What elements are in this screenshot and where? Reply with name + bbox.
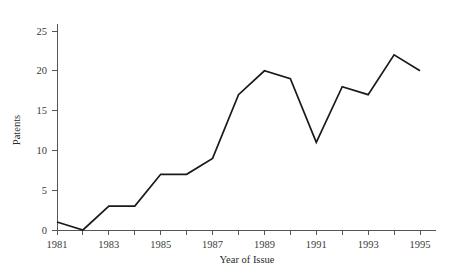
- x-tick-label: 1995: [410, 239, 431, 250]
- x-tick-label: 1981: [47, 239, 68, 250]
- x-tick-label: 1993: [358, 239, 379, 250]
- x-tick-labels: 19811983198519871989199119931995: [47, 239, 431, 250]
- y-tick-labels: 0510152025: [37, 26, 48, 236]
- data-series-group: [57, 55, 420, 230]
- patents-line-chart-figure: 0510152025 Patents 198119831985198719891…: [0, 0, 452, 276]
- x-axis-label: Year of Issue: [220, 254, 275, 265]
- x-tick-label: 1989: [254, 239, 275, 250]
- x-tick-label: 1985: [150, 239, 171, 250]
- y-tick-label: 5: [42, 185, 47, 196]
- x-tick-label: 1983: [98, 239, 119, 250]
- series-patents-line: [57, 55, 420, 230]
- y-axis-group: 0510152025 Patents: [11, 24, 57, 236]
- x-tick-marks: [57, 230, 420, 235]
- x-tick-label: 1987: [202, 239, 223, 250]
- y-tick-label: 25: [37, 26, 48, 37]
- y-tick-label: 0: [42, 225, 47, 236]
- y-tick-label: 10: [37, 145, 48, 156]
- chart-canvas: 0510152025 Patents 198119831985198719891…: [0, 0, 452, 276]
- x-axis-group: 19811983198519871989199119931995 Year of…: [47, 230, 437, 265]
- y-tick-label: 15: [37, 105, 48, 116]
- y-tick-label: 20: [37, 65, 48, 76]
- x-tick-label: 1991: [306, 239, 327, 250]
- y-axis-label: Patents: [11, 115, 22, 145]
- y-tick-marks: [52, 31, 57, 230]
